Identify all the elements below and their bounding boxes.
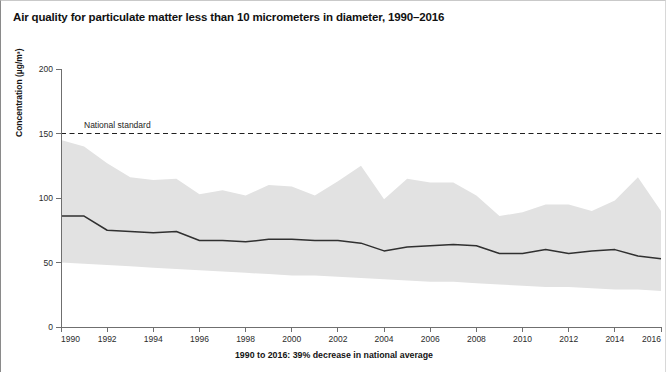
chart-figure: Air quality for particulate matter less … [0, 0, 666, 372]
y-axis-tick-label: 150 [39, 129, 53, 139]
y-axis-tick-label: 50 [44, 258, 54, 268]
x-axis-tick-label: 1998 [236, 334, 255, 344]
x-axis-tick-label: 2008 [467, 334, 486, 344]
x-axis-tick-label: 2000 [282, 334, 301, 344]
x-axis-tick-label: 2014 [605, 334, 624, 344]
x-axis-tick-label: 2012 [559, 334, 578, 344]
y-axis-tick-label: 0 [48, 322, 53, 332]
y-axis-tick-label: 200 [39, 64, 53, 74]
chart-svg: National standard05010015020019901992199… [1, 1, 666, 372]
x-axis-tick-label: 1996 [190, 334, 209, 344]
y-axis-tick-label: 100 [39, 193, 53, 203]
x-axis-tick-label: 1992 [98, 334, 117, 344]
x-axis-tick-label: 2016 [642, 334, 661, 344]
x-axis-tick-label: 2010 [513, 334, 532, 344]
x-axis-tick-label: 2002 [328, 334, 347, 344]
national-standard-label: National standard [84, 120, 151, 130]
plot-area: National standard05010015020019901992199… [1, 1, 666, 372]
x-axis-tick-label: 2006 [421, 334, 440, 344]
concentration-range-band [61, 140, 661, 291]
x-axis-tick-label: 1990 [61, 334, 80, 344]
x-axis-tick-label: 2004 [375, 334, 394, 344]
x-axis-tick-label: 1994 [144, 334, 163, 344]
x-axis-caption: 1990 to 2016: 39% decrease in national a… [1, 350, 666, 360]
